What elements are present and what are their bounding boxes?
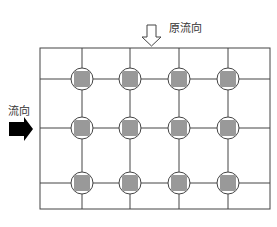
node (168, 172, 190, 194)
node (119, 117, 141, 139)
node (71, 172, 93, 194)
node (71, 117, 93, 139)
node (119, 68, 141, 90)
flow-label: 流向 (8, 102, 30, 118)
diagram-canvas (0, 0, 277, 227)
node (217, 172, 239, 194)
down-arrow-icon (142, 25, 161, 46)
node (119, 172, 141, 194)
nodes (71, 68, 239, 194)
node (217, 117, 239, 139)
node (71, 68, 93, 90)
node (168, 68, 190, 90)
right-arrow-icon (9, 117, 33, 141)
node (217, 68, 239, 90)
original-flow-label: 原流向 (169, 19, 202, 35)
node (168, 117, 190, 139)
